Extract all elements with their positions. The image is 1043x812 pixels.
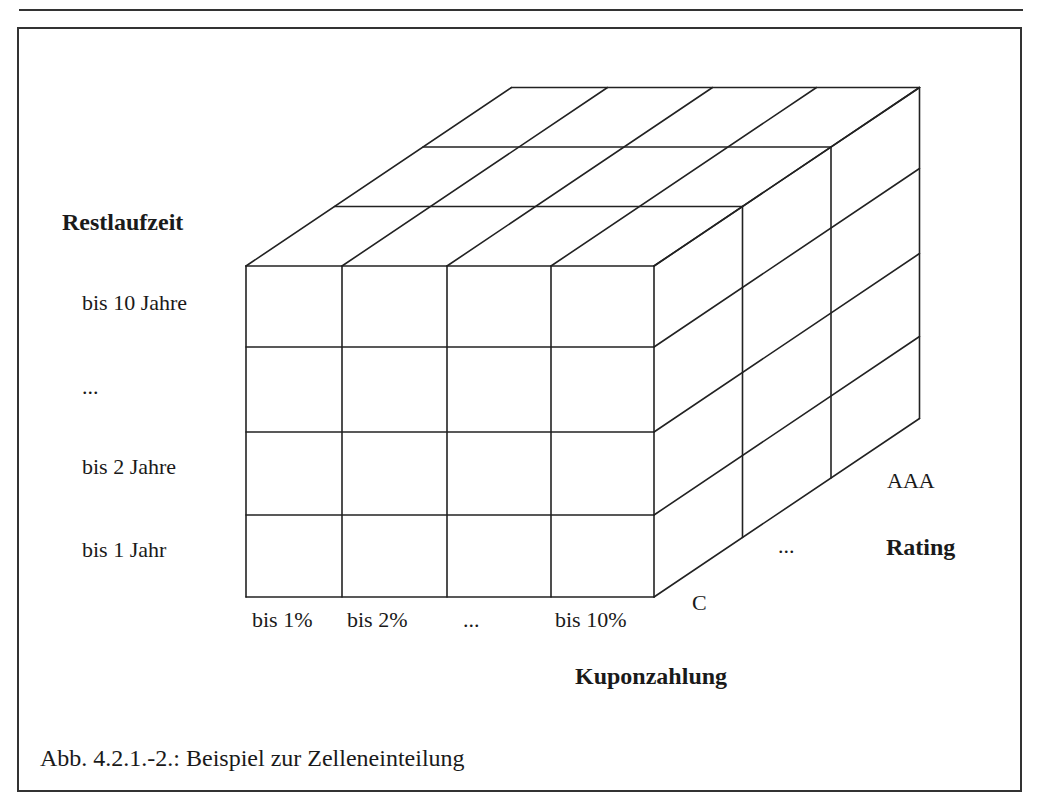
tick-label-depth-aaa: AAA [887,470,935,492]
figure-caption: Abb. 4.2.1.-2.: Beispiel zur Zelleneinte… [40,746,465,770]
axis-title-restlaufzeit: Restlaufzeit [62,210,183,234]
axis-title-rating: Rating [886,535,955,559]
tick-label-col-4: bis 10% [555,609,627,631]
tick-label-depth-c: C [692,592,707,614]
tick-label-col-2: bis 2% [347,609,408,631]
tick-label-col-1: bis 1% [252,609,313,631]
data-cube-diagram [0,0,1043,812]
tick-label-row-4: bis 1 Jahr [82,539,166,561]
tick-label-depth-ellipsis: ... [778,535,795,557]
axis-title-kuponzahlung: Kuponzahlung [575,664,727,688]
tick-label-row-3: bis 2 Jahre [82,456,176,478]
tick-label-col-3: ... [463,609,480,631]
tick-label-row-1: bis 10 Jahre [82,292,187,314]
tick-label-row-2: ... [82,376,99,398]
cube-grid-lines [246,88,920,598]
